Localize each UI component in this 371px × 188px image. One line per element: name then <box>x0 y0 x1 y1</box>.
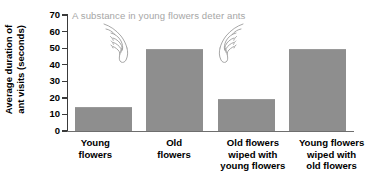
y-axis-tick-label: 30 <box>32 76 60 86</box>
y-axis-title-line2: ant visits (seconds) <box>15 24 27 113</box>
bar-chart: Average duration of ant visits (seconds)… <box>0 0 371 188</box>
pointing-hand-down-icon <box>205 21 247 65</box>
y-axis-tick <box>62 14 67 15</box>
y-axis-tick-label: 20 <box>32 93 60 103</box>
y-axis-tick <box>62 81 67 82</box>
x-axis-category-label: Old flowers wiped with young flowers <box>214 137 293 185</box>
y-axis-tick-label: 70 <box>32 10 60 20</box>
y-axis-title: Average duration of ant visits (seconds) <box>0 0 30 138</box>
y-axis-tick <box>62 114 67 115</box>
y-axis-tick <box>62 31 67 32</box>
x-axis-category-label: Young flowers <box>56 137 135 185</box>
x-axis-category-label: Young flowers wiped with old flowers <box>292 137 371 185</box>
x-axis-category-label: Old flowers <box>135 137 214 185</box>
pointing-hand-down-icon <box>100 21 142 65</box>
y-axis-tick-label: 50 <box>32 43 60 53</box>
y-axis-tick-label: 40 <box>32 60 60 70</box>
y-axis-tick <box>62 97 67 98</box>
y-axis-tick-label: 10 <box>32 109 60 119</box>
bar <box>218 99 275 131</box>
bar <box>146 49 203 131</box>
y-axis-tick-label: 0 <box>32 126 60 136</box>
bar <box>75 107 132 131</box>
y-axis-tick <box>62 48 67 49</box>
y-axis-title-line1: Average duration of <box>4 24 16 113</box>
chart-annotation: A substance in young flowers deter ants <box>72 10 246 21</box>
y-axis-tick <box>62 130 67 131</box>
x-axis-category-labels: Young flowersOld flowersOld flowers wipe… <box>56 137 371 185</box>
y-axis-tick <box>62 64 67 65</box>
y-axis-tick-label: 60 <box>32 27 60 37</box>
bar <box>289 49 346 131</box>
